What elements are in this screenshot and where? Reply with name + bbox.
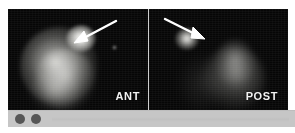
uptake-region-secondary — [215, 39, 255, 85]
scintigraphy-viewer: ANT POST — [0, 0, 295, 133]
toolbar-dot-group — [15, 114, 41, 124]
scan-image-area: ANT POST — [8, 9, 288, 110]
bottom-toolbar — [8, 110, 295, 128]
uptake-region-lower — [30, 71, 80, 110]
uptake-region-secondary — [34, 49, 96, 110]
focal-hot-spot-post — [175, 28, 199, 50]
page-bottom-margin — [0, 127, 295, 133]
uptake-background-haze — [179, 55, 225, 110]
toolbar-dot-2[interactable] — [31, 114, 41, 124]
view-label-ant: ANT — [116, 90, 140, 102]
uptake-region-primary — [20, 27, 98, 105]
view-label-post: POST — [246, 90, 278, 102]
scan-panel-ant[interactable]: ANT — [8, 9, 148, 110]
uptake-speck — [112, 45, 117, 50]
toolbar-filler-strip — [52, 117, 289, 122]
scan-panel-post[interactable]: POST — [149, 9, 288, 110]
panel-divider — [148, 9, 149, 110]
annotation-arrow-ant — [64, 17, 120, 51]
annotation-arrow-post — [163, 15, 215, 47]
toolbar-dot-1[interactable] — [15, 114, 25, 124]
focal-hot-spot-ant — [66, 25, 96, 52]
